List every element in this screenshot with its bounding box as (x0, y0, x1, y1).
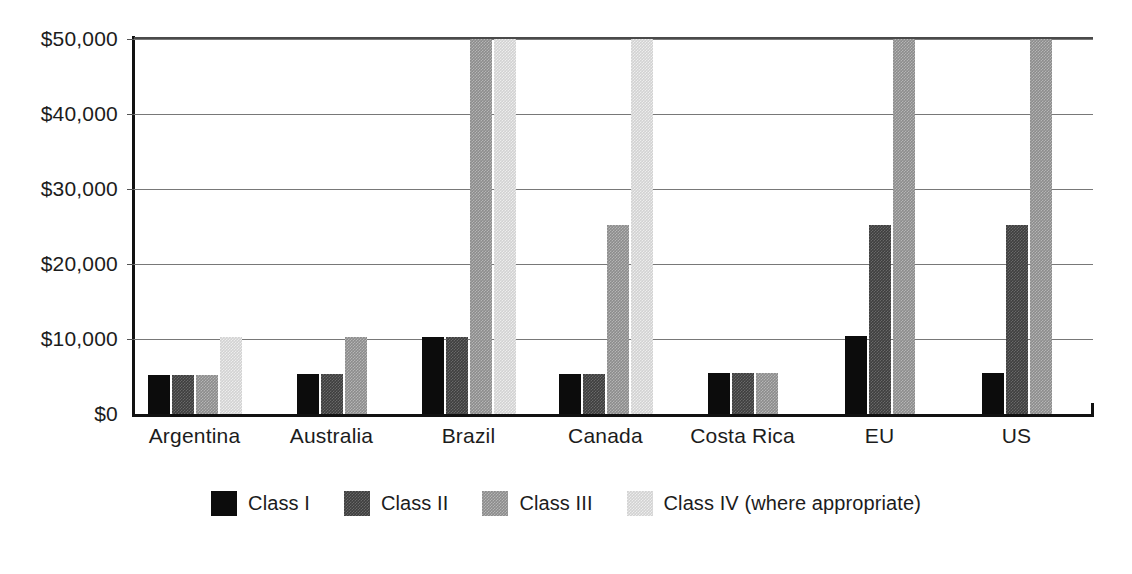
x-axis-line (132, 414, 1094, 417)
x-axis-tick-label: Australia (290, 424, 374, 448)
legend-swatch-icon (627, 491, 653, 516)
x-axis-tick-label: Canada (568, 424, 643, 448)
bar (345, 337, 367, 414)
bar (422, 337, 444, 414)
bar-group (271, 39, 408, 414)
y-axis-tick-mark (127, 264, 134, 265)
bar (732, 373, 754, 414)
y-axis-tick-label: $20,000 (0, 252, 118, 276)
bar-chart: $0$10,000$20,000$30,000$40,000$50,000 Ar… (0, 0, 1132, 574)
y-axis-tick-mark (127, 189, 134, 190)
x-axis-tick-label: Costa Rica (690, 424, 795, 448)
bar-group (545, 39, 682, 414)
y-axis-tick-label: $0 (0, 402, 118, 426)
bar (196, 375, 218, 414)
x-axis-category-labels: ArgentinaAustraliaBrazilCanadaCosta Rica… (134, 424, 1093, 458)
bar-group (819, 39, 956, 414)
y-axis-tick-label: $50,000 (0, 27, 118, 51)
bar (845, 336, 867, 414)
bar-group (682, 39, 819, 414)
bar (446, 337, 468, 414)
legend-swatch-icon (211, 491, 237, 516)
legend-item[interactable]: Class III (482, 491, 592, 516)
y-axis-tick-mark (127, 339, 134, 340)
bar (297, 374, 319, 414)
bar (148, 375, 170, 414)
legend-label: Class III (519, 492, 592, 515)
bar (1006, 225, 1028, 414)
legend-item[interactable]: Class II (344, 491, 448, 516)
bar-group (956, 39, 1093, 414)
y-axis-tick-mark (127, 39, 134, 40)
bar-group (134, 39, 271, 414)
bar (756, 373, 778, 414)
y-axis-tick-label: $10,000 (0, 327, 118, 351)
legend-label: Class I (248, 492, 310, 515)
plot-bars (134, 39, 1093, 414)
bar-group (408, 39, 545, 414)
legend-label: Class II (381, 492, 448, 515)
chart-legend: Class IClass IIClass IIIClass IV (where … (0, 491, 1132, 516)
x-axis-tick-label: Brazil (442, 424, 496, 448)
y-axis: $0$10,000$20,000$30,000$40,000$50,000 (0, 0, 118, 574)
legend-label: Class IV (where appropriate) (664, 492, 921, 515)
legend-item[interactable]: Class IV (where appropriate) (627, 491, 921, 516)
x-axis-tick-label: Argentina (149, 424, 241, 448)
x-axis-tick-label: EU (865, 424, 895, 448)
bar (982, 373, 1004, 414)
bar (631, 39, 653, 414)
bar (494, 39, 516, 414)
bar (708, 373, 730, 414)
y-axis-tick-label: $30,000 (0, 177, 118, 201)
bar (583, 374, 605, 415)
x-axis-tick-label: US (1002, 424, 1032, 448)
bar (172, 375, 194, 414)
y-axis-tick-label: $40,000 (0, 102, 118, 126)
y-axis-tick-mark (127, 114, 134, 115)
bar (220, 337, 242, 414)
legend-swatch-icon (344, 491, 370, 516)
bar (607, 225, 629, 414)
bar (893, 39, 915, 414)
legend-item[interactable]: Class I (211, 491, 310, 516)
bar (869, 225, 891, 414)
bar (559, 374, 581, 415)
legend-swatch-icon (482, 491, 508, 516)
bar (1030, 39, 1052, 414)
bar (470, 39, 492, 414)
bar (321, 374, 343, 414)
